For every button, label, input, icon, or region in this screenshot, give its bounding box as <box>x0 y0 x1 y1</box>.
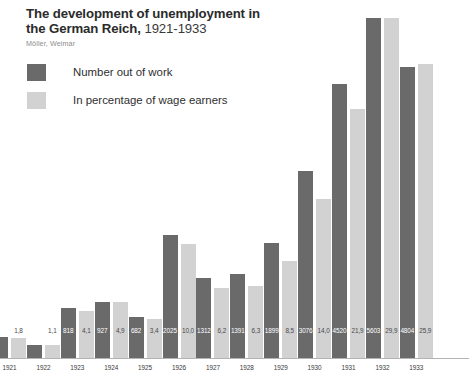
bar-group: 202510,0 <box>163 0 196 358</box>
bar-percentage-of-wage-earners[interactable]: 6,2 <box>214 288 229 358</box>
bar-percentage-of-wage-earners[interactable]: 6,3 <box>248 286 263 358</box>
bar-group: 307614,0 <box>298 0 331 358</box>
bar-group: 9274,9 <box>95 0 128 358</box>
bar-percentage-of-wage-earners[interactable]: 10,0 <box>181 244 196 358</box>
bar-group: 18998,5 <box>264 0 297 358</box>
bar-group: 2151,1 <box>27 0 60 358</box>
bar-value-label: 682 <box>131 328 141 334</box>
bar-percentage-of-wage-earners[interactable]: 3,4 <box>147 319 162 358</box>
bar-value-label: 5603 <box>366 328 380 334</box>
x-axis-tick-label: 1933 <box>392 364 441 371</box>
bar-value-label: 3,4 <box>150 328 159 334</box>
bar-number-out-of-work[interactable]: 5603 <box>366 18 381 358</box>
bar-value-label: 1899 <box>265 328 279 334</box>
bar-value-label: 1312 <box>197 328 211 334</box>
bar-number-out-of-work[interactable]: 682 <box>129 317 144 358</box>
bar-value-label: 4,9 <box>116 328 125 334</box>
bar-number-out-of-work[interactable]: 215 <box>27 345 42 358</box>
bar-number-out-of-work[interactable]: 346 <box>0 337 8 358</box>
bar-value-label: 4804 <box>400 328 414 334</box>
bar-group: 480425,9 <box>400 0 433 358</box>
plot-area: 3461,82151,18184,19274,96823,4202510,013… <box>0 0 469 358</box>
bar-value-label: 818 <box>63 328 73 334</box>
bar-percentage-of-wage-earners[interactable]: 8,5 <box>282 261 297 358</box>
bar-number-out-of-work[interactable]: 927 <box>95 302 110 358</box>
bar-value-label: 21,9 <box>351 328 363 334</box>
bar-group: 8184,1 <box>61 0 94 358</box>
bar-value-label: 29,9 <box>385 328 397 334</box>
bar-value-label: 10,0 <box>182 328 194 334</box>
bar-value-label: 1,8 <box>14 328 23 334</box>
bar-number-out-of-work[interactable]: 818 <box>61 308 76 358</box>
bar-percentage-of-wage-earners[interactable]: 4,1 <box>79 311 94 358</box>
bar-value-label: 2025 <box>163 328 177 334</box>
bar-number-out-of-work[interactable]: 1899 <box>264 243 279 358</box>
bar-value-label: 6,2 <box>218 328 227 334</box>
bar-group: 3461,8 <box>0 0 26 358</box>
bar-value-label: 4,1 <box>82 328 91 334</box>
bar-value-label: 25,9 <box>419 328 431 334</box>
bar-value-label: 4520 <box>333 328 347 334</box>
bar-value-label: 8,5 <box>285 328 294 334</box>
bar-percentage-of-wage-earners[interactable]: 14,0 <box>316 199 331 358</box>
bar-number-out-of-work[interactable]: 1312 <box>196 278 211 358</box>
bar-value-label: 346 <box>0 328 6 334</box>
bar-group: 560329,9 <box>366 0 399 358</box>
bar-value-label: 14,0 <box>318 328 330 334</box>
bar-value-label: 1,1 <box>48 328 57 334</box>
x-axis-line <box>0 358 469 359</box>
bar-number-out-of-work[interactable]: 2025 <box>163 235 178 358</box>
bar-percentage-of-wage-earners[interactable]: 4,9 <box>113 302 128 358</box>
bar-percentage-of-wage-earners[interactable]: 21,9 <box>350 109 365 358</box>
bar-group: 6823,4 <box>129 0 162 358</box>
bar-percentage-of-wage-earners[interactable]: 1,1 <box>45 345 60 358</box>
bar-value-label: 215 <box>29 328 39 334</box>
bar-value-label: 6,3 <box>252 328 261 334</box>
bar-group: 13916,3 <box>230 0 263 358</box>
bar-percentage-of-wage-earners[interactable]: 25,9 <box>418 64 433 358</box>
bar-number-out-of-work[interactable]: 4520 <box>332 84 347 358</box>
bar-group: 13126,2 <box>196 0 229 358</box>
bar-value-label: 927 <box>97 328 107 334</box>
bar-value-label: 1391 <box>231 328 245 334</box>
bar-percentage-of-wage-earners[interactable]: 1,8 <box>11 338 26 358</box>
bar-number-out-of-work[interactable]: 4804 <box>400 67 415 358</box>
bar-number-out-of-work[interactable]: 3076 <box>298 171 313 358</box>
unemployment-bar-chart: The development of unemployment in the G… <box>0 0 469 390</box>
bar-percentage-of-wage-earners[interactable]: 29,9 <box>384 18 399 358</box>
bar-value-label: 3076 <box>299 328 313 334</box>
bar-group: 452021,9 <box>332 0 365 358</box>
bar-number-out-of-work[interactable]: 1391 <box>230 274 245 358</box>
